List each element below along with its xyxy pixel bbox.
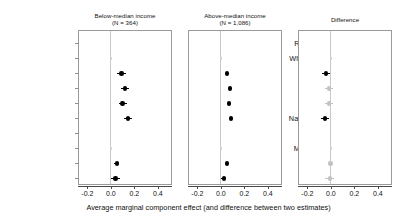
- zero-reference-line-2: [220, 31, 221, 184]
- x-tick-1-3: [158, 187, 159, 190]
- x-tick-label-3-2: 0.2: [342, 190, 366, 198]
- estimate-point: [113, 176, 117, 180]
- y-tick-7: [75, 148, 78, 149]
- y-tick-0: [75, 43, 78, 44]
- estimate-point: [327, 86, 331, 90]
- x-tick-label-2-3: 0.4: [256, 190, 280, 198]
- y-tick-1: [75, 58, 78, 59]
- estimate-point: [126, 116, 130, 120]
- x-tick-label-3-1: 0.0: [319, 190, 343, 198]
- x-tick-3-2: [354, 187, 355, 190]
- x-tick-2-1: [221, 187, 222, 190]
- estimate-point: [225, 71, 229, 75]
- estimate-point: [115, 161, 119, 165]
- y-tick-5: [75, 118, 78, 119]
- panel-frame-1: [78, 30, 172, 185]
- y-tick-3: [75, 88, 78, 89]
- y-tick-9: [75, 178, 78, 179]
- x-tick-1-1: [111, 187, 112, 190]
- panel-title-2: Above-median income(N = 1,086): [188, 12, 282, 27]
- x-tick-label-1-0: -0.2: [75, 190, 99, 198]
- x-axis-caption: Average marginal component effect (and d…: [0, 203, 417, 212]
- x-tick-2-0: [197, 187, 198, 190]
- x-tick-1-0: [87, 187, 88, 190]
- x-tick-3-0: [307, 187, 308, 190]
- x-tick-3-1: [331, 187, 332, 190]
- panel-title-line1: Above-median income: [188, 12, 282, 19]
- x-tick-label-1-1: 0.0: [99, 190, 123, 198]
- panel-frame-2: [188, 30, 282, 185]
- y-tick-2: [75, 73, 78, 74]
- estimate-point: [120, 101, 124, 105]
- panel-title-line1: Difference: [298, 16, 392, 23]
- estimate-point: [222, 176, 226, 180]
- panel-frame-3: [298, 30, 392, 185]
- x-tick-2-3: [268, 187, 269, 190]
- x-tick-label-3-3: 0.4: [366, 190, 390, 198]
- panel-title-1: Below-median income(N = 364): [78, 12, 172, 27]
- x-tick-2-2: [244, 187, 245, 190]
- y-tick-8: [75, 163, 78, 164]
- panel-title-line2: (N = 364): [78, 19, 172, 26]
- estimate-point: [227, 101, 231, 105]
- panel-title-line1: Below-median income: [78, 12, 172, 19]
- zero-reference-line-1: [110, 31, 111, 184]
- x-tick-1-2: [134, 187, 135, 190]
- estimate-point: [323, 116, 327, 120]
- estimate-point: [119, 71, 123, 75]
- estimate-point: [123, 86, 127, 90]
- panel-title-3: Difference: [298, 16, 392, 23]
- x-tick-label-1-3: 0.4: [146, 190, 170, 198]
- x-tick-label-3-0: -0.2: [295, 190, 319, 198]
- x-tick-3-3: [378, 187, 379, 190]
- estimate-point: [225, 161, 229, 165]
- x-tick-label-1-2: 0.2: [122, 190, 146, 198]
- estimate-point: [229, 116, 233, 120]
- y-tick-4: [75, 103, 78, 104]
- estimate-point: [327, 101, 331, 105]
- panel-title-line2: (N = 1,086): [188, 19, 282, 26]
- forest-plot-figure: Race/ethnicity:White (baseline)AsianBlac…: [0, 0, 417, 224]
- x-tick-label-2-1: 0.0: [209, 190, 233, 198]
- y-tick-6: [75, 133, 78, 134]
- x-tick-label-2-2: 0.2: [232, 190, 256, 198]
- x-tick-label-2-0: -0.2: [185, 190, 209, 198]
- estimate-point: [328, 176, 332, 180]
- estimate-point: [328, 161, 332, 165]
